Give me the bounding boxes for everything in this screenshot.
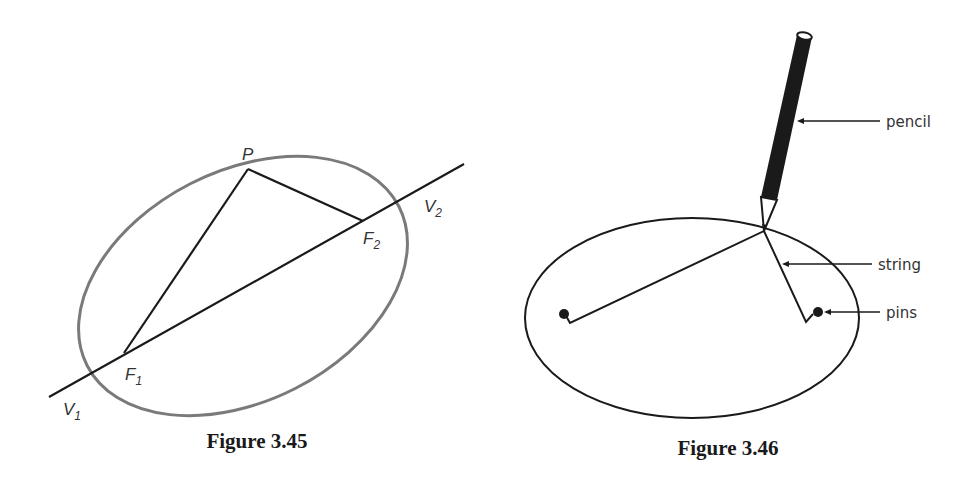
segment-f1-p [124,169,248,353]
caption-figure-3-46: Figure 3.46 [677,436,778,460]
label-v2: V2 [424,197,442,220]
callout-string: string [782,256,921,274]
figures-canvas: P F2 V2 F1 V1 Figure 3.45 [0,0,980,481]
label-f2: F2 [363,229,380,252]
figure-3-46: pencil string pins Figure 3.46 [525,31,931,460]
label-p: P [242,145,254,164]
label-v1: V1 [63,400,81,423]
label-f1: F1 [125,365,142,388]
pencil-icon [761,31,813,231]
callout-pins-label: pins [886,304,917,322]
callout-pencil: pencil [797,113,931,131]
pin-right [813,307,823,317]
segment-p-f2 [248,169,363,221]
callout-string-label: string [878,256,921,274]
caption-figure-3-45: Figure 3.45 [206,429,307,453]
pin-left [559,309,569,319]
figure-3-45: P F2 V2 F1 V1 Figure 3.45 [35,104,464,468]
pencil-body [761,35,812,200]
callout-pencil-label: pencil [886,113,931,131]
callout-pins: pins [824,304,917,322]
string-line [565,231,813,323]
